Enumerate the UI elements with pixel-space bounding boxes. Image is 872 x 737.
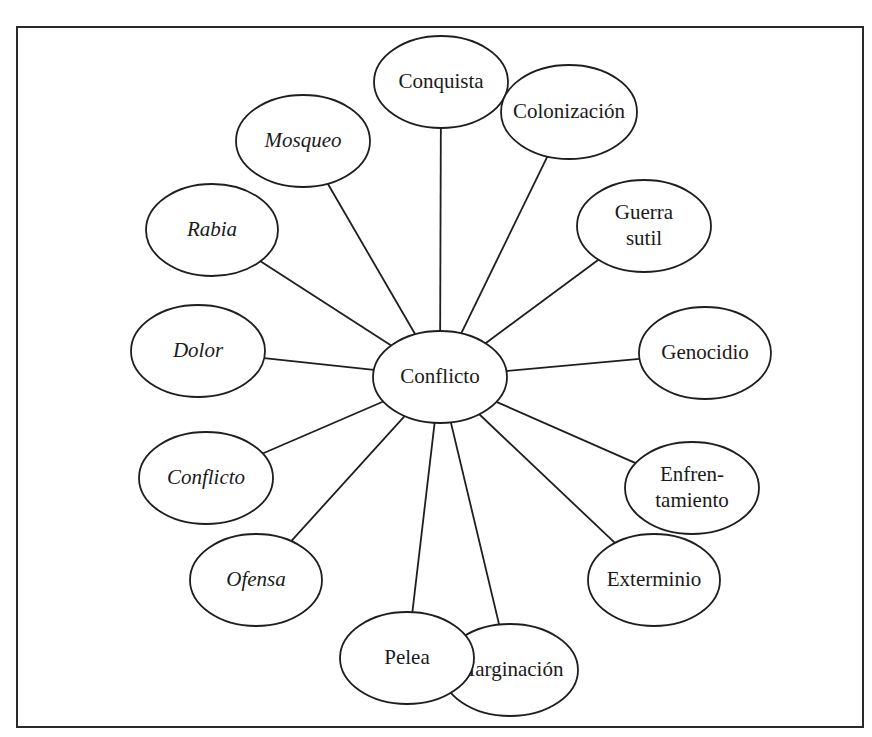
node-label-guerra-sutil: sutil bbox=[626, 226, 662, 250]
node-label-genocidio: Genocidio bbox=[661, 340, 748, 364]
central-node-label: Conflicto bbox=[400, 364, 479, 388]
connector-line-dolor bbox=[264, 358, 374, 370]
node-label-mosqueo: Mosqueo bbox=[264, 128, 342, 152]
node-label-enfrentamiento: tamiento bbox=[655, 488, 728, 512]
node-label-conflicto-italic: Conflicto bbox=[167, 465, 245, 489]
node-label-ofensa: Ofensa bbox=[226, 567, 286, 591]
node-genocidio: Genocidio bbox=[639, 307, 771, 399]
node-rabia: Rabia bbox=[146, 184, 278, 276]
node-enfrentamiento: Enfren-tamiento bbox=[625, 442, 759, 534]
node-conquista: Conquista bbox=[374, 36, 508, 128]
connector-line-pelea bbox=[412, 423, 434, 612]
connector-line-guerra-sutil bbox=[486, 260, 599, 344]
node-label-enfrentamiento: Enfren- bbox=[660, 462, 724, 486]
node-colonizacion: Colonización bbox=[501, 65, 637, 159]
node-label-colonizacion: Colonización bbox=[513, 99, 625, 123]
connector-line-exterminio bbox=[479, 414, 615, 543]
connector-line-genocidio bbox=[506, 359, 639, 371]
connector-line-mosqueo bbox=[328, 184, 415, 335]
node-label-guerra-sutil: Guerra bbox=[615, 200, 674, 224]
node-label-rabia: Rabia bbox=[186, 217, 237, 241]
connector-line-rabia bbox=[260, 261, 391, 345]
node-mosqueo: Mosqueo bbox=[236, 95, 370, 187]
node-guerra-sutil: Guerrasutil bbox=[577, 180, 711, 272]
connector-line-conquista bbox=[440, 128, 441, 331]
central-node: Conflicto bbox=[373, 331, 507, 423]
node-conflicto-italic: Conflicto bbox=[139, 432, 273, 524]
node-pelea: Pelea bbox=[340, 612, 474, 704]
concept-map-diagram: ConquistaColonizaciónGuerrasutilGenocidi… bbox=[0, 0, 872, 737]
node-label-pelea: Pelea bbox=[384, 645, 430, 669]
node-label-exterminio: Exterminio bbox=[607, 567, 701, 591]
node-dolor: Dolor bbox=[131, 305, 265, 397]
node-label-dolor: Dolor bbox=[172, 338, 224, 362]
connector-line-enfrentamiento bbox=[496, 402, 635, 463]
node-ofensa: Ofensa bbox=[190, 534, 322, 626]
connector-line-conflicto-italic bbox=[263, 401, 384, 453]
node-label-conquista: Conquista bbox=[398, 69, 484, 93]
node-exterminio: Exterminio bbox=[588, 534, 720, 626]
connector-line-marginacion bbox=[451, 422, 499, 624]
